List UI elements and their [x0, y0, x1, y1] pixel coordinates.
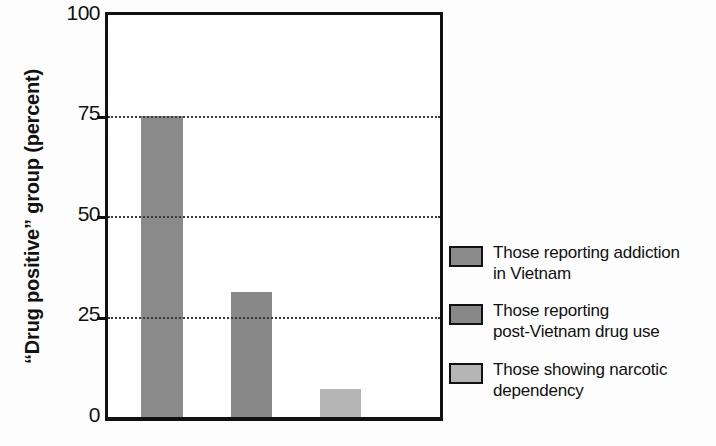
gridline-50 — [108, 216, 440, 218]
chart-legend: Those reporting addiction in Vietnam Tho… — [449, 243, 711, 418]
y-tickmark-75 — [97, 317, 108, 320]
gridline-75 — [108, 317, 440, 319]
y-tickmark-25 — [97, 116, 108, 119]
legend-label-line2: dependency — [493, 381, 667, 402]
y-axis-tick-labels: 100 75 50 25 0 — [38, 0, 100, 446]
y-tickmark-50 — [97, 216, 108, 219]
y-tick-label-75: 75 — [42, 102, 100, 123]
bar-those-reporting-addiction-in-vietnam — [141, 116, 183, 418]
plot-inner — [108, 15, 440, 417]
legend-label: Those reporting addiction in Vietnam — [493, 243, 680, 284]
bar-chart-figure: “Drug positive” group (percent) 100 75 5… — [0, 0, 716, 446]
legend-label-line1: Those reporting — [493, 301, 660, 322]
legend-label-line1: Those showing narcotic — [493, 360, 667, 381]
legend-item: Those reporting addiction in Vietnam — [449, 243, 711, 284]
legend-label: Those reporting post-Vietnam drug use — [493, 301, 660, 342]
y-tick-label-0: 0 — [42, 404, 100, 425]
y-tick-label-25: 25 — [42, 303, 100, 324]
legend-swatch-icon — [449, 246, 483, 267]
bar-those-reporting-post-vietnam-drug-use — [231, 292, 272, 417]
plot-area — [105, 12, 443, 421]
legend-label-line2: in Vietnam — [493, 264, 680, 285]
legend-label: Those showing narcotic dependency — [493, 360, 667, 401]
y-tick-label-100: 100 — [42, 2, 100, 23]
legend-swatch-icon — [449, 304, 483, 325]
legend-swatch-icon — [449, 363, 483, 384]
legend-item: Those showing narcotic dependency — [449, 360, 711, 401]
bar-those-showing-narcotic-dependency — [320, 389, 361, 417]
gridline-25 — [108, 116, 440, 118]
legend-item: Those reporting post-Vietnam drug use — [449, 301, 711, 342]
y-tick-label-50: 50 — [42, 203, 100, 224]
legend-label-line2: post-Vietnam drug use — [493, 322, 660, 343]
legend-label-line1: Those reporting addiction — [493, 243, 680, 264]
